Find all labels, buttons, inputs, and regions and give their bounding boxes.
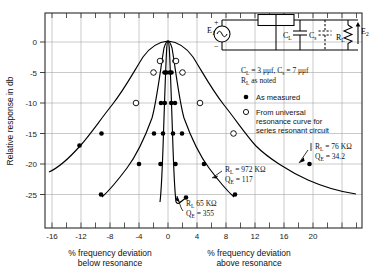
- y-tick-label: -10: [25, 99, 37, 108]
- x-tick-label: 8: [224, 232, 229, 241]
- y-tick-label: -20: [25, 160, 37, 169]
- x-tick-label: -4: [135, 232, 143, 241]
- data-point: [137, 162, 142, 167]
- x-axis-title-right: % frequency deviation above resonance: [207, 248, 291, 268]
- data-point-open: [197, 100, 203, 106]
- data-point: [173, 162, 178, 167]
- data-point-open: [173, 58, 179, 64]
- data-point: [202, 162, 207, 167]
- x-axis-title-left-line2: below resonance: [78, 258, 143, 268]
- data-point: [99, 131, 104, 136]
- legend-open-marker-icon: [243, 109, 248, 114]
- x-tick-label: 4: [195, 232, 200, 241]
- data-point: [171, 131, 176, 136]
- data-point: [161, 131, 166, 136]
- x-axis-title-right-line1: % frequency deviation: [207, 248, 291, 258]
- x-tick-label: 16: [280, 232, 289, 241]
- x-tick-label: -16: [46, 232, 58, 241]
- data-point-open: [231, 131, 237, 137]
- x-tick-label: 20: [309, 232, 318, 241]
- data-point: [152, 131, 157, 136]
- resonance-response-figure: 0 -5 -10 -15 -20 -25 -16 -12 -8 -4 0 4 8…: [0, 0, 377, 277]
- data-point: [169, 101, 174, 106]
- legend-item-universal-line1: From universal: [256, 108, 306, 117]
- data-point: [180, 131, 185, 136]
- annotation-65k-line1: RL 65 KΩ: [186, 199, 217, 209]
- data-point: [168, 70, 173, 75]
- annotation-65k-line2: QE = 355: [186, 209, 214, 219]
- x-axis-title-right-line2: above resonance: [216, 258, 281, 268]
- y-tick-label: -25: [25, 191, 37, 200]
- data-point: [163, 101, 168, 106]
- x-tick-label: -12: [75, 232, 87, 241]
- annotation-972k-line2: QE = 117: [225, 175, 253, 185]
- x-axis-title-left-line1: % frequency deviation: [68, 248, 152, 258]
- data-point: [77, 143, 82, 148]
- y-tick-label: -15: [25, 130, 37, 139]
- data-point: [233, 192, 238, 197]
- legend-item-universal-line3: series resonant circuit: [256, 126, 330, 135]
- y-axis-title: Relative response in db: [5, 76, 15, 165]
- x-axis-title-left: % frequency deviation below resonance: [68, 248, 152, 268]
- y-tick-label: -5: [30, 69, 38, 78]
- y-tick-label: 0: [33, 38, 38, 47]
- data-point-open: [151, 70, 157, 76]
- x-tick-label: -8: [106, 232, 114, 241]
- data-point-open: [180, 70, 186, 76]
- data-point-open: [133, 100, 139, 106]
- legend-filled-marker-icon: [244, 95, 249, 100]
- polarity-plus: +: [214, 18, 219, 27]
- legend-item-measured: As measured: [256, 93, 300, 102]
- data-point: [158, 162, 163, 167]
- polarity-minus: −: [214, 42, 219, 51]
- data-point: [307, 162, 312, 167]
- legend-item-universal-line2: resonance curve for: [256, 117, 323, 126]
- legend-capacitance-line: CL = 3 μμf, Cs = 7 μμf: [241, 66, 309, 76]
- annotation-76k-line2: QE = 34.2: [315, 152, 345, 162]
- data-point-open: [157, 58, 163, 64]
- data-point: [99, 192, 104, 197]
- x-tick-label: 0: [166, 232, 171, 241]
- x-tick-label: 12: [251, 232, 260, 241]
